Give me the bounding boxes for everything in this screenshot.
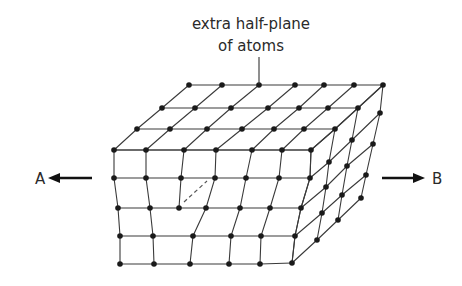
atom xyxy=(301,126,307,132)
atom xyxy=(143,175,149,181)
atom xyxy=(326,159,332,165)
atom xyxy=(243,175,249,181)
atom xyxy=(111,175,117,181)
atom xyxy=(190,233,196,239)
atom xyxy=(314,237,320,243)
annotation-line-2: of atoms xyxy=(218,37,284,55)
atom xyxy=(111,147,117,153)
atom xyxy=(212,175,218,181)
atom xyxy=(296,105,302,111)
atom xyxy=(226,261,232,267)
force-arrow-a: A xyxy=(35,170,92,188)
atom xyxy=(204,126,210,132)
atom xyxy=(219,82,225,88)
force-arrow-b: B xyxy=(382,170,442,188)
atom xyxy=(271,126,277,132)
atom xyxy=(203,205,209,211)
atom xyxy=(344,163,350,169)
atom xyxy=(289,260,295,266)
top-face-depth-line xyxy=(282,85,354,150)
atom xyxy=(319,210,325,216)
atom xyxy=(181,147,187,153)
atom xyxy=(267,205,273,211)
atom xyxy=(176,205,182,211)
atom xyxy=(265,105,271,111)
atom xyxy=(239,126,245,132)
top-face-depth-line xyxy=(184,85,259,150)
atom xyxy=(292,82,298,88)
atom xyxy=(134,126,140,132)
atom xyxy=(167,126,173,132)
front-face-row xyxy=(120,263,292,264)
top-face-depth-line xyxy=(252,85,324,150)
atom xyxy=(335,217,341,223)
atom xyxy=(213,147,219,153)
atom xyxy=(117,261,123,267)
atom xyxy=(325,105,331,111)
atom xyxy=(228,105,234,111)
atom xyxy=(150,233,156,239)
atom xyxy=(237,205,243,211)
atom xyxy=(355,105,361,111)
atom xyxy=(349,137,355,143)
atom xyxy=(323,184,329,190)
atom xyxy=(151,261,157,267)
atom xyxy=(358,195,364,201)
atom xyxy=(276,175,282,181)
edge-dislocation-diagram: extra half-plane of atoms A B xyxy=(0,0,462,286)
atom xyxy=(249,147,255,153)
atom xyxy=(363,172,369,178)
atom xyxy=(370,141,376,147)
right-face-depth-line xyxy=(311,85,383,150)
atom xyxy=(380,82,386,88)
atom xyxy=(332,126,338,132)
annotation-line-1: extra half-plane xyxy=(192,15,310,33)
top-face-depth-line xyxy=(114,85,189,150)
atom xyxy=(307,175,313,181)
atom xyxy=(321,82,327,88)
atom xyxy=(159,105,165,111)
atom xyxy=(298,205,304,211)
atom xyxy=(192,105,198,111)
atom xyxy=(257,261,263,267)
atom xyxy=(292,233,298,239)
dislocation-dashed-line xyxy=(184,181,207,202)
atom xyxy=(377,110,383,116)
atom xyxy=(258,233,264,239)
atom xyxy=(178,175,184,181)
atom xyxy=(187,261,193,267)
atom xyxy=(147,205,153,211)
label-b: B xyxy=(432,170,442,188)
atom xyxy=(186,82,192,88)
label-a: A xyxy=(35,170,46,188)
atom xyxy=(351,82,357,88)
top-face-depth-line xyxy=(216,85,295,150)
lattice-atoms xyxy=(111,82,386,267)
atom xyxy=(228,233,234,239)
atom xyxy=(117,233,123,239)
atom xyxy=(308,147,314,153)
front-face-column xyxy=(190,150,216,264)
atom xyxy=(279,147,285,153)
atom xyxy=(143,147,149,153)
atom xyxy=(339,192,345,198)
top-face-depth-line xyxy=(146,85,222,150)
atom xyxy=(115,205,121,211)
arrow-right-icon xyxy=(413,173,425,183)
arrow-left-icon xyxy=(48,173,60,183)
